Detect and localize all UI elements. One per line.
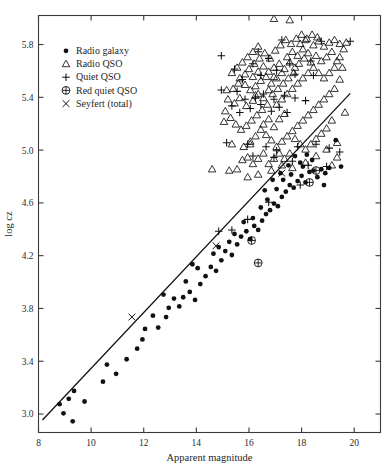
data-point [219, 258, 224, 263]
data-point [328, 48, 336, 54]
legend-marker [64, 48, 69, 53]
x-tick-label: 14 [192, 438, 202, 448]
data-point [241, 220, 246, 225]
data-point [264, 101, 272, 107]
data-point [195, 266, 200, 271]
x-tick-label: 18 [297, 438, 307, 448]
data-point [323, 171, 328, 176]
y-tick-label: 3.4 [22, 357, 34, 367]
data-point [315, 175, 320, 180]
data-point [331, 36, 339, 42]
data-point [82, 399, 87, 404]
data-point [291, 135, 299, 141]
data-point [341, 109, 349, 115]
data-point [161, 292, 166, 297]
data-point [164, 315, 169, 320]
legend-label: Radio QSO [76, 58, 122, 69]
data-point [339, 164, 344, 169]
data-point [187, 290, 192, 295]
data-point [260, 150, 268, 156]
x-tick-label: 20 [349, 438, 359, 448]
data-point [283, 189, 288, 194]
data-point [66, 396, 71, 401]
data-point [203, 274, 208, 279]
x-axis-title: Apparent magnitude [166, 452, 252, 463]
data-point [275, 60, 283, 66]
data-point [227, 239, 232, 244]
data-point [260, 63, 268, 69]
legend-marker [62, 60, 70, 66]
x-tick-label: 16 [244, 438, 254, 448]
y-tick-label: 5.4 [22, 93, 34, 103]
data-point [270, 123, 278, 129]
y-tick-label: 3.0 [22, 409, 34, 419]
legend-label: Radio galaxy [76, 45, 129, 56]
data-point [227, 114, 235, 120]
legend-label: Quiet QSO [76, 71, 121, 82]
data-point [211, 251, 216, 256]
data-point [331, 85, 339, 91]
data-point [235, 242, 240, 247]
data-point [224, 96, 232, 102]
data-point [336, 76, 344, 82]
data-point [181, 295, 186, 300]
data-point [258, 205, 263, 210]
y-tick-label: 4.6 [22, 198, 34, 208]
data-point [223, 249, 228, 254]
data-point [298, 31, 306, 37]
data-point [101, 379, 106, 384]
data-point [220, 118, 228, 124]
data-point [244, 229, 249, 234]
data-point [260, 218, 265, 223]
data-point [325, 39, 333, 45]
data-point [233, 165, 241, 171]
data-point [268, 167, 276, 173]
data-point [105, 362, 110, 367]
data-point [140, 337, 145, 342]
data-point [193, 297, 198, 302]
data-point [291, 185, 296, 190]
data-point [244, 173, 252, 179]
data-point [172, 296, 177, 301]
data-point [274, 187, 279, 192]
data-point [256, 228, 261, 233]
data-point [270, 177, 275, 182]
data-point [156, 325, 161, 330]
data-point [225, 167, 233, 173]
data-point [239, 156, 247, 162]
data-point [135, 346, 140, 351]
data-point [295, 179, 300, 184]
legend-label: Seyfert (total) [76, 98, 132, 110]
data-point [198, 282, 203, 287]
scatter-plot: 81012141618203.03.43.84.24.65.05.45.8App… [0, 0, 389, 470]
data-point [289, 48, 297, 54]
data-point [190, 262, 195, 267]
data-point [214, 268, 219, 273]
fit-line [42, 93, 350, 420]
data-point [279, 195, 284, 200]
data-point [276, 204, 281, 209]
data-point [331, 64, 339, 70]
data-point [228, 140, 236, 146]
data-point [299, 173, 304, 178]
data-point [114, 371, 119, 376]
data-point [312, 152, 320, 158]
y-tick-label: 3.8 [22, 304, 34, 314]
data-point [339, 64, 347, 70]
data-point [151, 313, 156, 318]
data-point [286, 16, 294, 22]
data-point [232, 121, 240, 127]
data-point [222, 107, 230, 113]
data-point [229, 253, 234, 258]
data-point [322, 183, 327, 188]
data-point [61, 411, 66, 416]
y-axis-title: log cz [3, 211, 14, 237]
data-point [183, 279, 188, 284]
data-point [208, 264, 213, 269]
series-radio-galaxy [57, 138, 343, 424]
data-point [252, 224, 257, 229]
data-point [286, 163, 291, 168]
data-point [323, 125, 331, 131]
x-tick-label: 10 [86, 438, 96, 448]
legend: Radio galaxyRadio QSOQuiet QSORed quiet … [62, 45, 137, 110]
